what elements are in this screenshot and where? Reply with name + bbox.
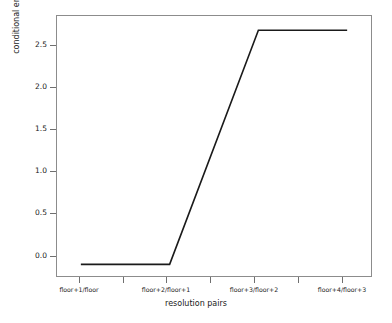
x-tick-mark [210,277,211,283]
y-tick-mark [50,213,56,214]
x-tick-label-1: floor+1/floor [59,286,98,294]
y-tick-mark [50,256,56,257]
y-tick-label: 2.5 [35,41,47,49]
conditional-entropy-line [81,30,347,264]
y-tick-label: 0.0 [35,252,47,260]
x-tick-mark [123,277,124,283]
y-tick-label: 2.0 [35,83,47,91]
y-tick-mark [50,129,56,130]
y-tick-label: 1.0 [35,167,47,175]
y-tick-label: 1.5 [35,125,47,133]
x-tick-mark [254,277,255,283]
plot-canvas [56,15,372,277]
y-tick-mark [50,171,56,172]
x-tick-mark [342,277,343,283]
x-tick-label-4: floor+4/floor+3 [318,286,366,294]
y-tick-label: 0.5 [35,209,47,217]
x-tick-label-2: floor+2/floor+1 [142,286,190,294]
x-tick-mark [166,277,167,283]
y-tick-mark [50,45,56,46]
y-axis-title: conditional entropy [10,0,24,146]
x-tick-mark [298,277,299,283]
x-tick-label-3: floor+3/floor+2 [230,286,278,294]
chart-figure: 2.5 2.0 1.5 1.0 0.5 0.0 floor+1/floor fl… [0,0,392,323]
x-axis-title: resolution pairs [0,299,392,308]
x-tick-mark [79,277,80,283]
y-tick-mark [50,87,56,88]
